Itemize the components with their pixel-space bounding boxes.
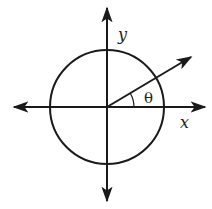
x-axis-label: x bbox=[180, 113, 189, 132]
angle-arc bbox=[130, 94, 134, 108]
y-axis-label: y bbox=[117, 25, 128, 44]
angle-label: θ bbox=[144, 89, 153, 107]
unit-circle-diagram: θ y x bbox=[0, 0, 212, 209]
